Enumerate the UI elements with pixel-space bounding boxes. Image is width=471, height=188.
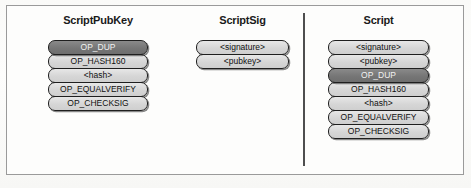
- script-op-pill: OP_CHECKSIG: [48, 96, 148, 111]
- script-op-pill: OP_DUP: [48, 40, 148, 55]
- script-op-pill: OP_DUP: [328, 68, 429, 83]
- script-op-pill: OP_EQUALVERIFY: [48, 82, 148, 97]
- stack-script: <signature><pubkey>OP_DUPOP_HASH160<hash…: [328, 40, 429, 138]
- script-op-pill: <hash>: [328, 96, 429, 111]
- script-op-pill: OP_HASH160: [48, 54, 148, 69]
- script-op-pill: <pubkey>: [196, 54, 289, 69]
- stack-scriptpubkey: OP_DUPOP_HASH160<hash>OP_EQUALVERIFYOP_C…: [48, 40, 148, 110]
- column-title-scriptpubkey: ScriptPubKey: [48, 14, 148, 26]
- script-op-pill: <hash>: [48, 68, 148, 83]
- script-op-pill: <pubkey>: [328, 54, 429, 69]
- column-divider: [303, 13, 305, 166]
- script-op-pill: <signature>: [196, 40, 289, 55]
- figure-canvas: ScriptPubKey OP_DUPOP_HASH160<hash>OP_EQ…: [0, 0, 471, 188]
- script-op-pill: OP_HASH160: [328, 82, 429, 97]
- script-op-pill: <signature>: [328, 40, 429, 55]
- column-title-scriptsig: ScriptSig: [196, 14, 289, 26]
- column-title-script: Script: [328, 14, 429, 26]
- stack-scriptsig: <signature><pubkey>: [196, 40, 289, 68]
- script-op-pill: OP_CHECKSIG: [328, 124, 429, 139]
- script-op-pill: OP_EQUALVERIFY: [328, 110, 429, 125]
